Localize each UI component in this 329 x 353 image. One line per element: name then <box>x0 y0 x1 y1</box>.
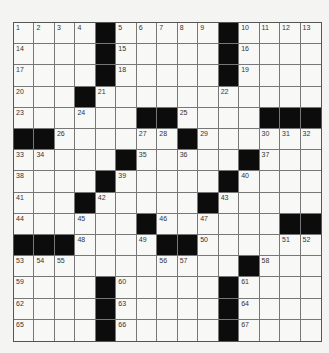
grid-cell[interactable] <box>280 193 300 214</box>
grid-cell[interactable] <box>260 87 280 108</box>
grid-cell[interactable] <box>260 320 280 341</box>
grid-cell[interactable] <box>198 277 218 298</box>
grid-cell[interactable]: 14 <box>14 44 34 65</box>
grid-cell[interactable] <box>55 108 75 129</box>
grid-cell[interactable] <box>96 108 116 129</box>
grid-cell[interactable] <box>280 87 300 108</box>
grid-cell[interactable] <box>219 214 239 235</box>
grid-cell[interactable]: 66 <box>116 320 136 341</box>
grid-cell[interactable]: 52 <box>301 235 321 256</box>
grid-cell[interactable] <box>55 87 75 108</box>
grid-cell[interactable]: 41 <box>14 193 34 214</box>
grid-cell[interactable] <box>55 320 75 341</box>
grid-cell[interactable] <box>301 65 321 86</box>
grid-cell[interactable] <box>116 87 136 108</box>
grid-cell[interactable]: 30 <box>260 129 280 150</box>
grid-cell[interactable] <box>137 65 157 86</box>
grid-cell[interactable] <box>239 214 259 235</box>
grid-cell[interactable] <box>96 129 116 150</box>
grid-cell[interactable] <box>75 299 95 320</box>
grid-cell[interactable] <box>301 150 321 171</box>
grid-cell[interactable]: 19 <box>239 65 259 86</box>
grid-cell[interactable]: 35 <box>137 150 157 171</box>
grid-cell[interactable] <box>178 299 198 320</box>
grid-cell[interactable]: 27 <box>137 129 157 150</box>
grid-cell[interactable]: 65 <box>14 320 34 341</box>
grid-cell[interactable] <box>157 150 177 171</box>
grid-cell[interactable] <box>301 256 321 277</box>
grid-cell[interactable] <box>75 171 95 192</box>
grid-cell[interactable]: 50 <box>198 235 218 256</box>
grid-cell[interactable] <box>137 320 157 341</box>
grid-cell[interactable] <box>178 44 198 65</box>
grid-cell[interactable] <box>198 108 218 129</box>
grid-cell[interactable] <box>198 256 218 277</box>
grid-cell[interactable] <box>55 65 75 86</box>
grid-cell[interactable]: 29 <box>198 129 218 150</box>
grid-cell[interactable] <box>137 299 157 320</box>
grid-cell[interactable]: 61 <box>239 277 259 298</box>
grid-cell[interactable] <box>157 44 177 65</box>
grid-cell[interactable]: 12 <box>280 23 300 44</box>
grid-cell[interactable]: 45 <box>75 214 95 235</box>
grid-cell[interactable]: 42 <box>96 193 116 214</box>
grid-cell[interactable] <box>34 320 54 341</box>
grid-cell[interactable] <box>260 65 280 86</box>
grid-cell[interactable] <box>260 193 280 214</box>
grid-cell[interactable]: 32 <box>301 129 321 150</box>
grid-cell[interactable]: 2 <box>34 23 54 44</box>
grid-cell[interactable] <box>55 299 75 320</box>
grid-cell[interactable] <box>301 299 321 320</box>
grid-cell[interactable] <box>198 150 218 171</box>
grid-cell[interactable] <box>301 87 321 108</box>
grid-cell[interactable]: 5 <box>116 23 136 44</box>
grid-cell[interactable] <box>198 44 218 65</box>
grid-cell[interactable]: 4 <box>75 23 95 44</box>
grid-cell[interactable] <box>198 65 218 86</box>
grid-cell[interactable] <box>260 214 280 235</box>
grid-cell[interactable] <box>280 171 300 192</box>
grid-cell[interactable] <box>239 193 259 214</box>
grid-cell[interactable]: 49 <box>137 235 157 256</box>
grid-cell[interactable] <box>75 150 95 171</box>
grid-cell[interactable] <box>55 171 75 192</box>
grid-cell[interactable] <box>96 235 116 256</box>
grid-cell[interactable]: 43 <box>219 193 239 214</box>
grid-cell[interactable] <box>116 235 136 256</box>
grid-cell[interactable]: 53 <box>14 256 34 277</box>
grid-cell[interactable]: 3 <box>55 23 75 44</box>
grid-cell[interactable]: 6 <box>137 23 157 44</box>
grid-cell[interactable] <box>157 277 177 298</box>
grid-cell[interactable]: 21 <box>96 87 116 108</box>
grid-cell[interactable]: 37 <box>260 150 280 171</box>
grid-cell[interactable]: 59 <box>14 277 34 298</box>
grid-cell[interactable] <box>55 44 75 65</box>
grid-cell[interactable] <box>34 87 54 108</box>
grid-cell[interactable]: 23 <box>14 108 34 129</box>
grid-cell[interactable]: 67 <box>239 320 259 341</box>
grid-cell[interactable] <box>96 150 116 171</box>
grid-cell[interactable] <box>75 44 95 65</box>
grid-cell[interactable]: 7 <box>157 23 177 44</box>
grid-cell[interactable]: 44 <box>14 214 34 235</box>
grid-cell[interactable]: 57 <box>178 256 198 277</box>
grid-cell[interactable] <box>55 214 75 235</box>
grid-cell[interactable]: 10 <box>239 23 259 44</box>
grid-cell[interactable] <box>116 214 136 235</box>
grid-cell[interactable] <box>219 256 239 277</box>
grid-cell[interactable] <box>96 214 116 235</box>
grid-cell[interactable]: 63 <box>116 299 136 320</box>
grid-cell[interactable]: 46 <box>157 214 177 235</box>
grid-cell[interactable] <box>219 129 239 150</box>
grid-cell[interactable] <box>260 277 280 298</box>
grid-cell[interactable] <box>34 193 54 214</box>
grid-cell[interactable] <box>157 65 177 86</box>
grid-cell[interactable] <box>55 150 75 171</box>
grid-cell[interactable] <box>260 44 280 65</box>
grid-cell[interactable] <box>75 277 95 298</box>
grid-cell[interactable]: 38 <box>14 171 34 192</box>
grid-cell[interactable] <box>34 277 54 298</box>
grid-cell[interactable] <box>137 87 157 108</box>
grid-cell[interactable] <box>219 150 239 171</box>
grid-cell[interactable] <box>157 171 177 192</box>
